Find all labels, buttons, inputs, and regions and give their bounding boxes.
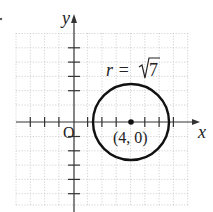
- stray-mark: [0, 18, 2, 20]
- center-point: [128, 119, 134, 125]
- center-label: (4, 0): [113, 129, 148, 147]
- svg-text:r =: r =: [106, 60, 130, 80]
- x-axis-label: x: [197, 122, 206, 142]
- radius-label: r = 7: [106, 58, 160, 80]
- radius-label-prefix: r =: [106, 60, 130, 80]
- radius-label-value: 7: [149, 60, 158, 80]
- origin-label: O: [63, 124, 75, 141]
- y-axis-arrow-icon: [71, 14, 77, 23]
- circle-diagram: y x O (4, 0) r = 7: [0, 0, 213, 212]
- y-axis-label: y: [60, 8, 70, 28]
